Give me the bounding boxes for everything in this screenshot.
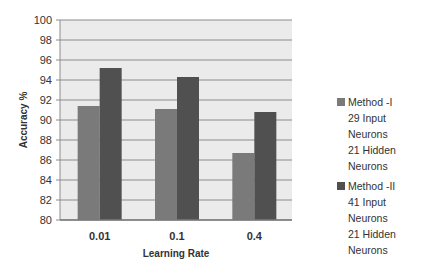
legend-label: Method -II [348, 178, 395, 194]
legend-swatch [337, 182, 345, 190]
x-axis-title: Learning Rate [143, 248, 210, 259]
y-tick-label: 100 [34, 14, 52, 26]
bar [232, 153, 254, 220]
y-tick-label: 94 [40, 74, 52, 86]
legend-swatch [337, 98, 345, 106]
x-tick-label: 0.01 [89, 230, 110, 242]
y-tick-label: 90 [40, 114, 52, 126]
y-tick-label: 80 [40, 214, 52, 226]
legend-label: Method -I [348, 94, 392, 110]
legend-detail: 21 Hidden Neurons [337, 142, 427, 174]
y-axis-title: Accuracy % [18, 92, 29, 149]
bar [155, 109, 177, 220]
x-tick-label: 0.1 [169, 230, 184, 242]
legend-entry-method-2: Method -II 41 Input Neurons 21 Hidden Ne… [337, 178, 427, 258]
y-tick-label: 82 [40, 194, 52, 206]
legend-detail: 41 Input Neurons [337, 194, 427, 226]
x-tick-label: 0.4 [247, 230, 263, 242]
y-tick-label: 86 [40, 154, 52, 166]
bar [254, 112, 276, 220]
y-tick-label: 92 [40, 94, 52, 106]
bar [177, 77, 199, 220]
x-axis-ticks: 0.010.10.4 [89, 230, 263, 242]
legend: Method -I 29 Input Neurons 21 Hidden Neu… [337, 94, 427, 262]
bar [100, 68, 122, 220]
y-axis-ticks: 80828486889092949698100 [34, 14, 52, 226]
plot-area [56, 20, 292, 220]
bar [78, 106, 100, 220]
legend-detail: 21 Hidden Neurons [337, 226, 427, 258]
legend-entry-method-1: Method -I 29 Input Neurons 21 Hidden Neu… [337, 94, 427, 174]
y-tick-label: 98 [40, 34, 52, 46]
legend-detail: 29 Input Neurons [337, 110, 427, 142]
y-tick-label: 88 [40, 134, 52, 146]
y-tick-label: 96 [40, 54, 52, 66]
y-tick-label: 84 [40, 174, 52, 186]
